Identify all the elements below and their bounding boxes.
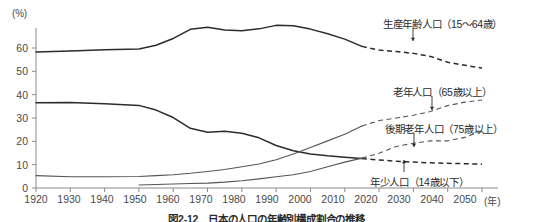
chart-figure: (%) 60 50 40 30 20 10 0 1920 1930 1940 1…	[0, 0, 533, 222]
figure-caption: 図2-12 日本の人口の年齢別構成割合の推移	[0, 211, 533, 222]
chart-plot-area	[0, 0, 533, 222]
